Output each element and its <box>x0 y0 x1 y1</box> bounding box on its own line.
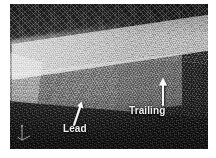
arrow-up-icon <box>155 76 171 106</box>
annotation-label-lead: Lead <box>63 123 87 134</box>
mesh-visualization-viewport: Lead Trailing <box>10 4 208 149</box>
annotation-label-trailing: Trailing <box>129 105 165 116</box>
coordinate-axes-icon <box>16 120 32 142</box>
figure-root: Lead Trailing <box>0 0 216 158</box>
